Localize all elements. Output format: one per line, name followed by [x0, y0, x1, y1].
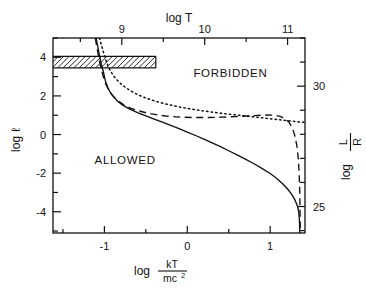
left-tick-label: -2 [36, 167, 46, 179]
right-axis-title-denominator: R [351, 138, 363, 146]
left-axis-title-text: logℓ [9, 128, 23, 152]
bottom-tick-label: -1 [100, 240, 110, 252]
top-tick-label: 9 [119, 23, 125, 35]
right-tick-label: 25 [313, 201, 325, 213]
bottom-axis-title-exponent: 2 [181, 271, 185, 280]
bottom-axis-title-denominator: mc [163, 272, 177, 284]
top-axis-title: log T [166, 11, 193, 25]
left-tick-label: 2 [40, 90, 46, 102]
left-tick-label: 4 [40, 51, 46, 63]
right-tick-label: 30 [313, 80, 325, 92]
top-tick-label: 11 [282, 23, 293, 35]
bottom-tick-label: 0 [184, 240, 190, 252]
left-axis-title: logℓ [9, 128, 23, 152]
forbidden-label: FORBIDDEN [193, 67, 267, 79]
allowed-label: ALLOWED [95, 154, 156, 166]
left-axis-title-symbol: ℓ [9, 128, 23, 132]
right-axis-title-numerator: L [337, 139, 349, 145]
bottom-axis-title-prefix: log [134, 264, 150, 278]
bottom-tick-label: 1 [267, 240, 273, 252]
left-tick-label: -4 [36, 206, 46, 218]
figure-background [0, 0, 366, 288]
figure-container: -10191011420-2-43025 FORBIDDENALLOWED lo… [0, 0, 366, 288]
plot-canvas: -10191011420-2-43025 FORBIDDENALLOWED lo… [0, 0, 366, 288]
bottom-axis-title-numerator: kT [166, 258, 178, 270]
left-tick-label: 0 [40, 129, 46, 141]
right-axis-title-prefix: log [339, 164, 353, 180]
top-tick-label: 10 [199, 23, 211, 35]
left-axis-title-prefix: log [9, 136, 23, 152]
